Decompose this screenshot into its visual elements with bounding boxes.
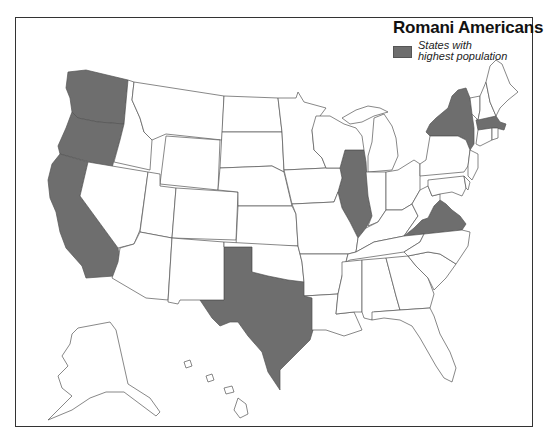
- state-new-jersey[interactable]: [468, 150, 478, 180]
- state-maryland[interactable]: [428, 176, 466, 196]
- legend-entry: States with highest population: [393, 40, 533, 62]
- state-wyoming[interactable]: [160, 136, 220, 190]
- us-map: [0, 0, 547, 440]
- state-hawaii-big-island[interactable]: [234, 398, 248, 418]
- state-kansas[interactable]: [236, 206, 298, 246]
- state-connecticut[interactable]: [476, 128, 492, 146]
- state-alaska[interactable]: [48, 322, 160, 420]
- state-north-dakota[interactable]: [222, 96, 282, 132]
- legend-label: States with highest population: [418, 40, 507, 62]
- state-rhode-island[interactable]: [492, 128, 498, 140]
- state-iowa[interactable]: [284, 168, 342, 204]
- state-hawaii-kauai[interactable]: [184, 360, 192, 368]
- state-michigan[interactable]: [368, 114, 398, 172]
- state-hawaii-oahu[interactable]: [206, 374, 214, 382]
- map-legend: Romani Americans States with highest pop…: [393, 18, 533, 62]
- legend-swatch: [393, 46, 412, 58]
- state-colorado[interactable]: [172, 188, 238, 240]
- state-hawaii-maui[interactable]: [224, 386, 234, 394]
- map-title: Romani Americans: [393, 18, 533, 38]
- state-florida[interactable]: [372, 308, 456, 382]
- state-pennsylvania[interactable]: [420, 136, 470, 176]
- state-new-mexico[interactable]: [168, 238, 224, 304]
- legend-label-line2: highest population: [418, 51, 507, 62]
- state-montana[interactable]: [132, 82, 224, 140]
- state-south-dakota[interactable]: [220, 132, 284, 172]
